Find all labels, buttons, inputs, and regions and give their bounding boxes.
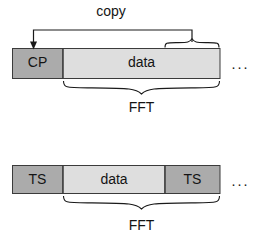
continuation-ellipsis-top: ··· bbox=[231, 58, 249, 75]
ts-left-segment-label: TS bbox=[12, 172, 63, 186]
fft-label-bottom: FFT bbox=[63, 218, 220, 232]
continuation-ellipsis-bottom: ··· bbox=[231, 175, 249, 192]
data-segment-label-top: data bbox=[63, 55, 220, 69]
fft-brace-bottom bbox=[64, 196, 220, 209]
ofdm-symbol-diagram bbox=[0, 0, 257, 243]
ts-right-segment-label: TS bbox=[165, 172, 220, 186]
cp-segment-label: CP bbox=[12, 55, 63, 69]
data-segment-label-bottom: data bbox=[63, 172, 165, 186]
copy-arrow bbox=[34, 30, 193, 43]
fft-brace-top-path bbox=[64, 81, 220, 94]
copy-label: copy bbox=[0, 4, 222, 18]
fft-brace-bottom-path bbox=[64, 196, 220, 209]
fft-label-top: FFT bbox=[63, 100, 220, 114]
copy-arrow-path bbox=[34, 30, 193, 43]
fft-brace-top bbox=[64, 81, 220, 94]
